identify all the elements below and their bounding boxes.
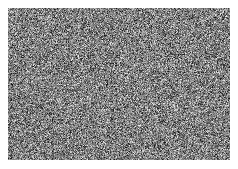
- noise-field-panel: [8, 8, 230, 160]
- screenshot-root: [0, 0, 238, 169]
- grayscale-noise-rectangle: [8, 8, 230, 160]
